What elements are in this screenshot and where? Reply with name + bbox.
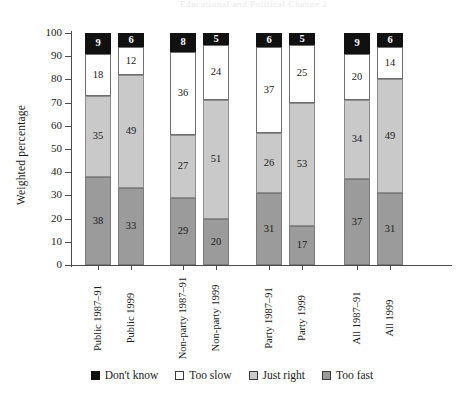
x-tick-label-text: Party 1987–91 (263, 287, 275, 349)
bar-party-1999[interactable]: 1753255 (289, 33, 315, 265)
x-tick-label: Party 1987–91 (262, 272, 276, 360)
x-tick-label-text: Non-party 1987–91 (177, 277, 189, 360)
white-square-icon (175, 371, 184, 380)
bar-segment-too-slow[interactable]: 37 (256, 47, 282, 133)
bar-segment-just-right[interactable]: 34 (344, 100, 370, 179)
bar-segment-too-fast[interactable]: 38 (85, 177, 111, 265)
legend-item-just-right[interactable]: Just right (249, 369, 306, 381)
x-tick-label: All 1987–91 (350, 272, 364, 360)
bar-segment-just-right[interactable]: 35 (85, 96, 111, 177)
bar-segment-too-slow[interactable]: 18 (85, 54, 111, 96)
bar-segment-don-t-know[interactable]: 6 (377, 33, 403, 47)
bar-segment-just-right[interactable]: 49 (377, 79, 403, 193)
y-tick-label: 10 (36, 236, 62, 247)
plot-area: 3835189334912629273682051245312637617532… (72, 33, 452, 265)
y-tick-label: 40 (36, 166, 62, 177)
legend-item-label: Too slow (189, 369, 231, 381)
x-tick-label-text: All 1999 (384, 299, 396, 336)
bar-public-1987-91[interactable]: 3835189 (85, 33, 111, 265)
bar-segment-too-fast[interactable]: 31 (377, 193, 403, 265)
x-tick-label-text: Non-party 1999 (210, 285, 222, 352)
bar-segment-just-right[interactable]: 51 (203, 100, 229, 218)
x-tick-mark (269, 265, 270, 270)
bar-segment-too-fast[interactable]: 31 (256, 193, 282, 265)
bar-non-party-1987-91[interactable]: 2927368 (170, 33, 196, 265)
black-square-icon (91, 371, 100, 380)
bar-segment-just-right[interactable]: 27 (170, 135, 196, 198)
legend-item-label: Don't know (105, 369, 159, 381)
legend-item-too-slow[interactable]: Too slow (175, 369, 231, 381)
bar-segment-just-right[interactable]: 53 (289, 103, 315, 226)
bar-all-1987-91[interactable]: 3734209 (344, 33, 370, 265)
x-tick-mark (357, 265, 358, 270)
bar-segment-too-slow[interactable]: 25 (289, 45, 315, 103)
bar-non-party-1999[interactable]: 2051245 (203, 33, 229, 265)
bar-segment-too-slow[interactable]: 20 (344, 54, 370, 100)
x-tick-mark (131, 265, 132, 270)
x-tick-mark (302, 265, 303, 270)
x-tick-mark (98, 265, 99, 270)
y-tick-label: 70 (36, 97, 62, 108)
x-tick-label: All 1999 (383, 272, 397, 360)
x-tick-mark (390, 265, 391, 270)
bar-segment-don-t-know[interactable]: 5 (289, 33, 315, 45)
y-tick-label: 30 (36, 189, 62, 200)
bar-segment-don-t-know[interactable]: 9 (85, 33, 111, 54)
x-tick-label: Public 1999 (124, 272, 138, 360)
bar-segment-too-fast[interactable]: 33 (118, 188, 144, 265)
bar-segment-too-slow[interactable]: 36 (170, 52, 196, 136)
x-tick-label-text: Party 1999 (296, 295, 308, 341)
x-axis-line (71, 265, 452, 266)
y-tick-label: 90 (36, 50, 62, 61)
bar-segment-don-t-know[interactable]: 9 (344, 33, 370, 54)
bar-segment-don-t-know[interactable]: 6 (256, 33, 282, 47)
bar-segment-don-t-know[interactable]: 6 (118, 33, 144, 47)
y-tick-label: 50 (36, 143, 62, 154)
x-tick-label: Public 1987–91 (91, 272, 105, 360)
legend-item-don-t-know[interactable]: Don't know (91, 369, 159, 381)
x-tick-label: Party 1999 (295, 272, 309, 360)
bar-segment-just-right[interactable]: 49 (118, 75, 144, 189)
x-tick-label: Non-party 1987–91 (176, 272, 190, 360)
bar-segment-too-fast[interactable]: 17 (289, 226, 315, 265)
dark-gray-square-icon (322, 371, 331, 380)
x-tick-label-text: All 1987–91 (351, 292, 363, 345)
legend-item-too-fast[interactable]: Too fast (322, 369, 373, 381)
x-tick-mark (216, 265, 217, 270)
y-tick-label: 80 (36, 73, 62, 84)
x-tick-label-text: Public 1987–91 (92, 285, 104, 351)
bar-segment-too-slow[interactable]: 24 (203, 45, 229, 101)
y-axis-ticks: 0102030405060708090100 (0, 0, 72, 398)
bar-party-1987-91[interactable]: 3126376 (256, 33, 282, 265)
bar-segment-just-right[interactable]: 26 (256, 133, 282, 193)
y-tick-label: 0 (36, 259, 62, 270)
y-tick-label: 100 (36, 27, 62, 38)
legend-item-label: Too fast (336, 369, 373, 381)
x-tick-mark (183, 265, 184, 270)
bar-segment-too-slow[interactable]: 14 (377, 47, 403, 79)
bar-segment-don-t-know[interactable]: 5 (203, 33, 229, 45)
bar-segment-too-slow[interactable]: 12 (118, 47, 144, 75)
x-tick-label: Non-party 1999 (209, 272, 223, 360)
bar-segment-too-fast[interactable]: 37 (344, 179, 370, 265)
stacked-bar-chart: Weighted percentage 01020304050607080901… (0, 0, 464, 398)
bar-segment-too-fast[interactable]: 29 (170, 198, 196, 265)
bar-segment-don-t-know[interactable]: 8 (170, 33, 196, 52)
bar-segment-too-fast[interactable]: 20 (203, 219, 229, 265)
chart-legend: Don't knowToo slowJust rightToo fast (0, 369, 464, 381)
legend-item-label: Just right (263, 369, 306, 381)
bar-public-1999[interactable]: 3349126 (118, 33, 144, 265)
light-gray-square-icon (249, 371, 258, 380)
x-tick-label-text: Public 1999 (125, 293, 137, 343)
y-tick-label: 60 (36, 120, 62, 131)
bar-all-1999[interactable]: 3149146 (377, 33, 403, 265)
y-tick-label: 20 (36, 213, 62, 224)
